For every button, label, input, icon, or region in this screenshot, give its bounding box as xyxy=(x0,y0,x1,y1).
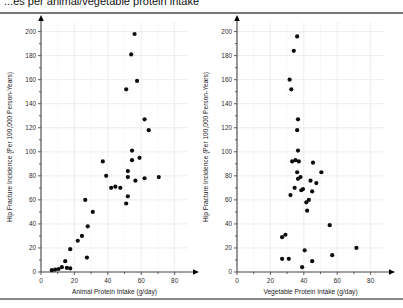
y-axis-title: Hip Fracture Incidence (Per 100,000 Pers… xyxy=(6,72,14,222)
data-point xyxy=(157,175,161,179)
data-point xyxy=(68,266,72,270)
data-point xyxy=(76,239,80,243)
data-point xyxy=(126,175,130,179)
data-point xyxy=(295,128,299,132)
data-point xyxy=(314,181,318,185)
chart-page: ...es per animal/vegetable protein intak… xyxy=(0,0,403,308)
data-point xyxy=(295,170,299,174)
y-tick-label: 140 xyxy=(221,100,232,107)
data-point xyxy=(130,158,134,162)
y-tick-label: 200 xyxy=(25,28,36,35)
data-point xyxy=(328,223,332,227)
y-tick-label: 60 xyxy=(29,196,37,203)
scatter-plot-animal-protein: 020406080100120140160180200020406080Anim… xyxy=(0,14,200,298)
data-point xyxy=(83,198,87,202)
data-point xyxy=(330,253,334,257)
data-point xyxy=(113,185,117,189)
data-point xyxy=(311,161,315,165)
scatter-plot-vegetable-protein: 020406080100120140160180200020406080Vege… xyxy=(196,14,396,298)
data-point xyxy=(310,189,314,193)
data-point xyxy=(295,34,299,38)
y-tick-label: 160 xyxy=(221,76,232,83)
data-point xyxy=(80,234,84,238)
x-tick-label: 20 xyxy=(71,277,79,284)
y-axis-arrow xyxy=(234,15,240,21)
data-point xyxy=(142,117,146,121)
x-axis-title: Vegetable Protein Intake (g/day) xyxy=(263,288,357,296)
data-point xyxy=(296,149,300,153)
data-point xyxy=(50,268,54,272)
data-point xyxy=(300,265,304,269)
x-axis-arrow xyxy=(389,269,395,275)
data-point xyxy=(297,159,301,163)
x-tick-label: 40 xyxy=(300,277,308,284)
x-tick-label: 60 xyxy=(334,277,342,284)
y-tick-label: 0 xyxy=(228,268,232,275)
data-point xyxy=(135,79,139,83)
data-point xyxy=(130,149,134,153)
data-point xyxy=(287,257,291,261)
y-tick-label: 120 xyxy=(221,124,232,131)
data-point xyxy=(126,194,130,198)
data-point xyxy=(296,117,300,121)
y-tick-label: 100 xyxy=(25,148,36,155)
data-point xyxy=(86,224,90,228)
data-point xyxy=(292,49,296,53)
y-tick-label: 180 xyxy=(25,52,36,59)
data-point xyxy=(304,200,308,204)
y-tick-label: 0 xyxy=(32,268,36,275)
data-point xyxy=(91,210,95,214)
data-point xyxy=(280,235,284,239)
x-axis-title: Animal Protein Intake (g/day) xyxy=(72,288,157,296)
chart-panel-vegetable-protein: 020406080100120140160180200020406080Vege… xyxy=(196,14,396,298)
data-point xyxy=(109,186,113,190)
bottom-divider xyxy=(0,298,403,300)
data-point xyxy=(129,52,133,56)
data-point xyxy=(290,159,294,163)
data-point xyxy=(137,156,141,160)
y-axis-title: Hip Fracture Incidence (Per 100,000 Pers… xyxy=(202,72,210,222)
y-tick-label: 40 xyxy=(29,220,37,227)
y-tick-label: 200 xyxy=(221,28,232,35)
y-tick-label: 60 xyxy=(225,196,233,203)
data-point xyxy=(289,87,293,91)
y-tick-label: 20 xyxy=(225,244,233,251)
x-tick-label: 20 xyxy=(267,277,275,284)
y-axis-arrow xyxy=(38,15,44,21)
y-tick-label: 20 xyxy=(29,244,37,251)
data-point xyxy=(308,179,312,183)
data-point xyxy=(132,32,136,36)
data-point xyxy=(310,259,314,263)
data-point xyxy=(296,177,300,181)
data-point xyxy=(299,188,303,192)
data-point xyxy=(280,257,284,261)
data-point xyxy=(288,78,292,82)
x-tick-label: 0 xyxy=(235,277,239,284)
page-title: ...es per animal/vegetable protein intak… xyxy=(4,0,199,8)
data-point xyxy=(68,247,72,251)
data-point xyxy=(142,176,146,180)
data-point xyxy=(288,193,292,197)
chart-panel-animal-protein: 020406080100120140160180200020406080Anim… xyxy=(0,14,200,298)
y-tick-label: 80 xyxy=(29,172,37,179)
data-point xyxy=(354,246,358,250)
data-point xyxy=(133,179,137,183)
data-point xyxy=(118,186,122,190)
data-point xyxy=(303,248,307,252)
data-point xyxy=(147,128,151,132)
data-point xyxy=(124,201,128,205)
data-point xyxy=(101,159,105,163)
data-point xyxy=(124,87,128,91)
y-tick-label: 160 xyxy=(25,76,36,83)
data-point xyxy=(305,209,309,213)
y-tick-label: 180 xyxy=(221,52,232,59)
y-tick-label: 100 xyxy=(221,148,232,155)
x-tick-label: 60 xyxy=(138,277,146,284)
x-tick-label: 80 xyxy=(171,277,179,284)
data-point xyxy=(85,255,89,259)
y-tick-label: 40 xyxy=(225,220,233,227)
x-tick-label: 0 xyxy=(39,277,43,284)
x-tick-label: 80 xyxy=(367,277,375,284)
x-tick-label: 40 xyxy=(104,277,112,284)
y-tick-label: 80 xyxy=(225,172,233,179)
